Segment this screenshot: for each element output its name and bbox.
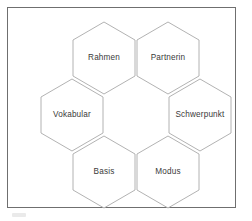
hex-cell-partnerin[interactable]: Partnerin	[137, 22, 199, 94]
hex-cell-schwerpunkt[interactable]: Schwerpunkt	[169, 79, 231, 151]
honeycomb-diagram: Rahmen Partnerin Vokabular Schwerpunkt B…	[0, 0, 252, 221]
hex-label-rahmen: Rahmen	[88, 53, 120, 62]
hex-label-modus: Modus	[155, 167, 180, 176]
hex-label-basis: Basis	[94, 167, 115, 176]
hex-cell-rahmen[interactable]: Rahmen	[73, 22, 135, 94]
scan-artifact	[12, 213, 26, 217]
hex-label-partnerin: Partnerin	[151, 53, 186, 62]
hex-label-vokabular: Vokabular	[53, 110, 91, 119]
hex-label-schwerpunkt: Schwerpunkt	[176, 110, 226, 119]
hex-cell-vokabular[interactable]: Vokabular	[41, 79, 103, 151]
hex-cell-basis[interactable]: Basis	[73, 136, 135, 208]
page-canvas: Rahmen Partnerin Vokabular Schwerpunkt B…	[0, 0, 252, 221]
hex-cell-modus[interactable]: Modus	[137, 136, 199, 208]
